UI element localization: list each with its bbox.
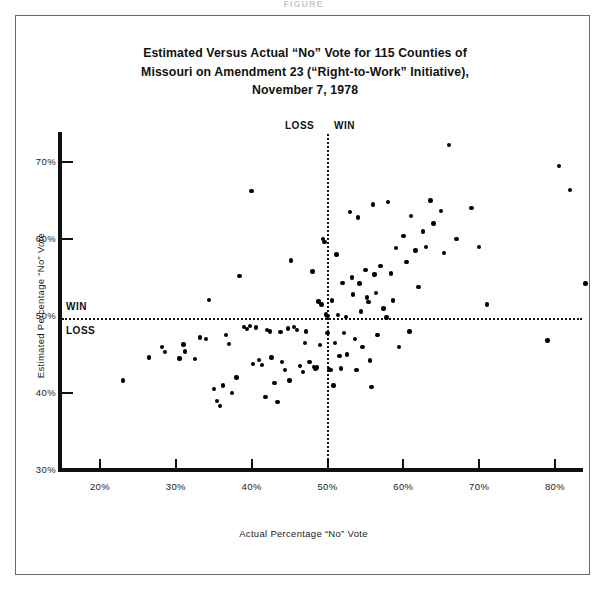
- data-point: [249, 189, 253, 193]
- data-point: [350, 275, 354, 279]
- data-point: [363, 268, 367, 272]
- data-point: [485, 302, 489, 306]
- data-point: [315, 365, 319, 369]
- data-point: [348, 210, 352, 214]
- data-point: [268, 329, 272, 333]
- loss-label-left: LOSS: [66, 325, 95, 336]
- data-point: [378, 264, 382, 268]
- y-axis-title: Estimated Percentage “No” Vote: [35, 206, 46, 406]
- data-point: [289, 258, 293, 262]
- win-label-top: WIN: [334, 120, 355, 131]
- data-point: [319, 302, 323, 306]
- data-point: [477, 245, 481, 249]
- data-point: [181, 342, 185, 346]
- data-point: [218, 404, 222, 408]
- data-point: [442, 251, 446, 255]
- x-tick-label-70: 70%: [459, 481, 499, 492]
- data-point: [304, 329, 308, 333]
- data-point: [401, 234, 405, 238]
- data-point: [318, 343, 322, 347]
- y-tick-label-70: 70%: [18, 156, 56, 167]
- data-point: [384, 315, 388, 319]
- data-point: [280, 360, 284, 364]
- data-point: [215, 399, 219, 403]
- data-point: [295, 328, 299, 332]
- data-point: [212, 387, 216, 391]
- data-point: [409, 214, 413, 218]
- data-point: [386, 200, 390, 204]
- data-point: [404, 260, 408, 264]
- data-point: [283, 368, 287, 372]
- data-point: [303, 341, 307, 345]
- data-point: [257, 358, 261, 362]
- data-point: [287, 378, 291, 382]
- data-point: [413, 248, 417, 252]
- data-point: [375, 333, 379, 337]
- data-point: [391, 298, 395, 302]
- data-point: [193, 357, 197, 361]
- data-point: [431, 221, 435, 225]
- data-point: [334, 252, 338, 256]
- data-point: [345, 352, 349, 356]
- y-axis-line: [58, 132, 62, 472]
- y-tick-60: [62, 238, 73, 240]
- data-point: [330, 298, 334, 302]
- data-point: [260, 363, 264, 367]
- x-tick-label-40: 40%: [232, 481, 272, 492]
- data-point: [230, 391, 234, 395]
- x-tick-80: [554, 459, 556, 468]
- data-point: [275, 400, 279, 404]
- data-point: [374, 291, 378, 295]
- data-point: [254, 325, 258, 329]
- data-point: [397, 345, 401, 349]
- data-point: [227, 342, 231, 346]
- x-tick-20: [99, 459, 101, 468]
- win-label-left: WIN: [66, 301, 87, 312]
- data-point: [353, 337, 357, 341]
- data-point: [447, 143, 451, 147]
- data-point: [336, 313, 340, 317]
- y-tick-70: [62, 161, 73, 163]
- x-axis-title: Actual Percentage “No” Vote: [0, 528, 607, 539]
- scatter-plot-area: 20%30%40%50%60%70%80% 30%40%50%60%70% LO…: [0, 0, 607, 592]
- data-point: [183, 349, 187, 353]
- data-point: [557, 164, 561, 168]
- data-point: [583, 281, 587, 285]
- data-point: [424, 245, 428, 249]
- data-point: [469, 206, 473, 210]
- data-point: [269, 355, 273, 359]
- y-tick-label-30: 30%: [18, 464, 56, 475]
- data-point: [344, 315, 348, 319]
- x-tick-30: [175, 459, 177, 468]
- x-tick-40: [251, 459, 253, 468]
- data-point: [545, 338, 549, 342]
- x-tick-label-20: 20%: [80, 481, 120, 492]
- horizontal-reference-line-50: [62, 318, 582, 320]
- data-point: [237, 274, 241, 278]
- data-point: [251, 362, 255, 366]
- data-point: [310, 269, 314, 273]
- data-point: [286, 326, 290, 330]
- data-point: [325, 331, 329, 335]
- y-tick-30: [62, 469, 73, 471]
- data-point: [394, 246, 398, 250]
- data-point: [439, 209, 443, 213]
- data-point: [407, 329, 411, 333]
- data-point: [177, 356, 181, 360]
- data-point: [359, 309, 363, 313]
- data-point: [325, 314, 329, 318]
- data-point: [340, 281, 344, 285]
- data-point: [428, 198, 432, 202]
- x-tick-60: [402, 459, 404, 468]
- data-point: [372, 272, 376, 276]
- data-point: [416, 285, 420, 289]
- data-point: [342, 331, 346, 335]
- data-point: [278, 330, 282, 334]
- data-point: [421, 229, 425, 233]
- data-point: [454, 237, 458, 241]
- data-point: [234, 375, 238, 379]
- x-tick-label-30: 30%: [156, 481, 196, 492]
- data-point: [357, 281, 361, 285]
- data-point: [328, 368, 332, 372]
- x-tick-label-80: 80%: [535, 481, 575, 492]
